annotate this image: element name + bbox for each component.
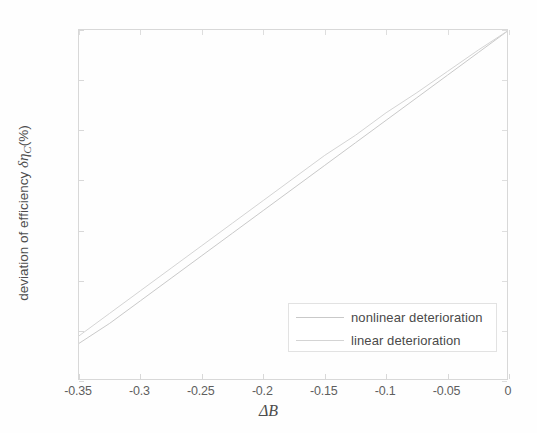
x-tick-label: -0.3 (129, 384, 150, 398)
x-tick-mark (325, 374, 326, 379)
x-tick-mark (509, 374, 510, 379)
x-tick-mark-top (263, 30, 264, 35)
x-tick-mark-top (509, 30, 510, 35)
x-axis-label-variable: B (268, 402, 278, 419)
series-line-nonlinear (79, 30, 507, 343)
y-tick-mark (79, 231, 84, 232)
x-tick-label: 0 (505, 384, 512, 398)
figure-canvas: -0.35-0.3-0.25-0.2-0.15-0.1-0.050 0-0.2-… (0, 0, 537, 433)
legend-entry-nonlinear: nonlinear deterioration (289, 305, 496, 329)
y-tick-mark-right (502, 30, 507, 31)
y-tick-mark (79, 130, 84, 131)
x-tick-mark (386, 374, 387, 379)
y-axis-label-prefix: deviation of efficiency (16, 168, 31, 301)
x-tick-mark (202, 374, 203, 379)
y-tick-mark (79, 381, 84, 382)
legend-box: nonlinear deterioration linear deteriora… (288, 303, 497, 352)
x-tick-label: -0.35 (64, 384, 92, 398)
y-axis-label-suffix: (%) (16, 125, 31, 146)
legend-line-sample-linear (296, 334, 344, 346)
y-tick-mark (79, 281, 84, 282)
x-tick-mark (140, 374, 141, 379)
y-axis-label-subscript: C (21, 146, 33, 153)
legend-label-nonlinear: nonlinear deterioration (351, 310, 483, 325)
y-axis-label: deviation of efficiency δηC(%) (15, 43, 33, 383)
y-tick-mark-right (502, 231, 507, 232)
y-tick-mark-right (502, 180, 507, 181)
x-tick-mark-top (448, 30, 449, 35)
y-tick-mark (79, 80, 84, 81)
y-tick-mark-right (502, 381, 507, 382)
y-tick-mark (79, 180, 84, 181)
legend-label-linear: linear deterioration (351, 333, 461, 348)
x-axis-label-delta: Δ (259, 402, 268, 419)
x-tick-label: -0.25 (187, 384, 215, 398)
series-line-linear (79, 30, 507, 336)
x-tick-mark (263, 374, 264, 379)
y-axis-label-symbol: δη (15, 154, 31, 168)
y-tick-mark (79, 331, 84, 332)
x-tick-label: -0.15 (310, 384, 338, 398)
x-tick-mark-top (325, 30, 326, 35)
x-tick-label: -0.2 (252, 384, 273, 398)
x-tick-mark-top (140, 30, 141, 35)
x-tick-label: -0.05 (433, 384, 461, 398)
x-axis-label: ΔB (0, 402, 537, 420)
y-tick-mark (79, 30, 84, 31)
x-tick-mark-top (202, 30, 203, 35)
legend-entry-linear: linear deterioration (289, 328, 496, 352)
legend-line-linear (296, 340, 344, 341)
legend-line-nonlinear (296, 317, 344, 318)
y-tick-mark-right (502, 281, 507, 282)
x-tick-mark-top (386, 30, 387, 35)
x-tick-label: -0.1 (375, 384, 396, 398)
x-tick-mark (79, 374, 80, 379)
legend-line-sample-nonlinear (296, 311, 344, 323)
y-tick-mark-right (502, 130, 507, 131)
x-tick-mark (448, 374, 449, 379)
y-tick-mark-right (502, 80, 507, 81)
y-tick-mark-right (502, 331, 507, 332)
